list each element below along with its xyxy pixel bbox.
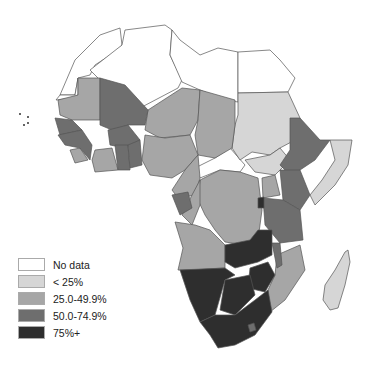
legend-label: No data [53, 259, 90, 271]
region-malawi [272, 243, 282, 268]
region-madagascar [323, 250, 350, 310]
legend-item-50-74: 50.0-74.9% [18, 307, 107, 324]
legend-swatch [18, 258, 45, 271]
region-chad [195, 90, 235, 158]
region-burundi-rwanda [258, 197, 264, 208]
legend-item-no-data: No data [18, 256, 107, 273]
region-mozambique [268, 245, 305, 312]
legend-swatch [18, 309, 45, 322]
region-uganda [262, 175, 280, 198]
legend-item-lt25: < 25% [18, 273, 107, 290]
legend-label: 75%+ [53, 327, 80, 339]
legend-swatch [18, 292, 45, 305]
legend-label: 25.0-49.9% [53, 293, 107, 305]
legend-item-75-plus: 75%+ [18, 324, 107, 341]
region-cote-divoire [92, 148, 118, 172]
legend-label: 50.0-74.9% [53, 310, 107, 322]
region-egypt [238, 50, 295, 93]
legend-item-25-49: 25.0-49.9% [18, 290, 107, 307]
cape-verde-islands [19, 113, 29, 126]
region-ghana [115, 145, 130, 170]
region-togo-benin [128, 140, 142, 168]
legend-label: < 25% [53, 276, 83, 288]
legend-swatch [18, 275, 45, 288]
map-legend: No data < 25% 25.0-49.9% 50.0-74.9% 75%+ [18, 256, 107, 341]
legend-swatch [18, 326, 45, 339]
